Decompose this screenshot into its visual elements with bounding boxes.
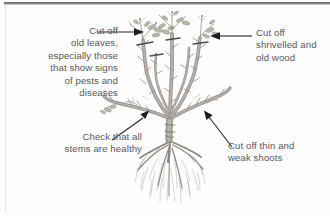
callout-label-shrivelled-wood: Cut off shrivelled and old wood [256, 27, 330, 64]
arrow-left-icon [210, 32, 252, 39]
page-bottom-edge [0, 213, 330, 216]
callout-label-check-stems: Check that all stems are healthy [22, 131, 142, 156]
figure-page: Cut off old leaves, especially those tha… [0, 0, 330, 216]
callout-label-thin-weak-shoots: Cut off thin and weak shoots [228, 140, 328, 165]
callout-label-old-leaves: Cut off old leaves, especially those tha… [10, 25, 118, 99]
